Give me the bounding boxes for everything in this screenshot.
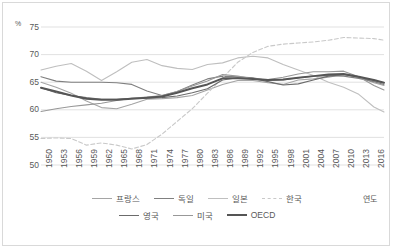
legend-item-독일[interactable]: 독일 <box>154 192 194 204</box>
legend-item-미국[interactable]: 미국 <box>173 209 213 221</box>
x-tick-label: 2016 <box>377 149 386 168</box>
x-tick-label: 1965 <box>120 149 129 168</box>
x-tick-label: 2004 <box>317 149 326 168</box>
legend-item-프랑스[interactable]: 프랑스 <box>92 192 140 204</box>
x-tick-label: 1983 <box>211 149 220 168</box>
legend-row-secondary: 영국미국OECD <box>3 208 391 222</box>
x-tick-label: 1959 <box>90 149 99 168</box>
legend-label: OECD <box>251 210 276 220</box>
x-tick-label: 1980 <box>196 149 205 168</box>
legend-swatch-icon <box>262 198 282 199</box>
legend-label: 독일 <box>178 192 194 204</box>
legend-label: 프랑스 <box>116 192 140 204</box>
legend-item-한국[interactable]: 한국 <box>262 192 302 204</box>
x-tick-label: 1974 <box>166 149 175 168</box>
legend-label: 한국 <box>286 192 302 204</box>
x-tick-label: 1977 <box>181 149 190 168</box>
legend-label: 미국 <box>197 209 213 221</box>
x-tick-label: 1950 <box>45 149 54 168</box>
x-tick-label: 1992 <box>256 149 265 168</box>
x-tick-label: 1989 <box>241 149 250 168</box>
legend-label: 영국 <box>143 209 159 221</box>
x-tick-label: 1962 <box>105 149 114 168</box>
legend-item-영국[interactable]: 영국 <box>119 209 159 221</box>
x-tick-label: 2007 <box>332 149 341 168</box>
legend-swatch-icon <box>154 198 174 199</box>
x-tick-label: 2013 <box>362 149 371 168</box>
chart-legend: 프랑스독일일본한국 영국미국OECD <box>3 191 391 227</box>
legend-swatch-icon <box>208 198 228 199</box>
x-tick-label: 1953 <box>60 149 69 168</box>
legend-swatch-icon <box>92 198 112 199</box>
x-tick-label: 1986 <box>226 149 235 168</box>
legend-label: 일본 <box>232 192 248 204</box>
x-tick-label: 2010 <box>347 149 356 168</box>
x-tick-label: 2001 <box>302 149 311 168</box>
legend-swatch-icon <box>227 214 247 216</box>
chart-frame: % 757065605550 1950195319561959196219651… <box>2 2 390 246</box>
x-tick-label: 1971 <box>150 149 159 168</box>
legend-item-OECD[interactable]: OECD <box>227 210 276 220</box>
x-tick-label: 1998 <box>287 149 296 168</box>
legend-item-일본[interactable]: 일본 <box>208 192 248 204</box>
legend-swatch-icon <box>173 215 193 216</box>
legend-row-primary: 프랑스독일일본한국 <box>3 191 391 205</box>
x-tick-label: 1995 <box>271 149 280 168</box>
x-tick-label: 1956 <box>75 149 84 168</box>
legend-swatch-icon <box>119 215 139 216</box>
x-tick-label: 1968 <box>135 149 144 168</box>
